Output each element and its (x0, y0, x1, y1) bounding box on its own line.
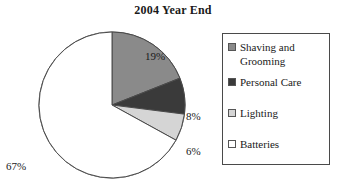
slice-value-label-shaving-and-grooming: 19% (145, 50, 165, 62)
legend-item-label: Shaving and Grooming (240, 40, 328, 68)
pie-svg (0, 22, 220, 195)
legend-item-lighting: Lighting (228, 106, 328, 120)
legend-swatch-icon (228, 140, 236, 148)
slice-value-label-personal-care: 8% (186, 110, 201, 122)
pie-chart-figure: 2004 Year End 19% 8% 6% 67% Shaving and … (0, 0, 346, 195)
pie-plot-area: 19% 8% 6% 67% (0, 22, 220, 195)
legend-item-shaving-and-grooming: Shaving and Grooming (228, 40, 328, 68)
legend-item-batteries: Batteries (228, 137, 328, 151)
slice-value-label-lighting: 6% (186, 145, 201, 157)
legend-swatch-icon (228, 43, 236, 51)
chart-title: 2004 Year End (0, 3, 346, 18)
legend-item-personal-care: Personal Care (228, 75, 328, 89)
legend-swatch-icon (228, 109, 236, 117)
slice-value-label-batteries: 67% (6, 160, 26, 172)
legend-item-label: Lighting (240, 106, 278, 120)
legend-item-label: Personal Care (240, 75, 301, 89)
chart-legend: Shaving and Grooming Personal Care Light… (222, 33, 330, 165)
legend-swatch-icon (228, 78, 236, 86)
legend-item-label: Batteries (240, 137, 279, 151)
